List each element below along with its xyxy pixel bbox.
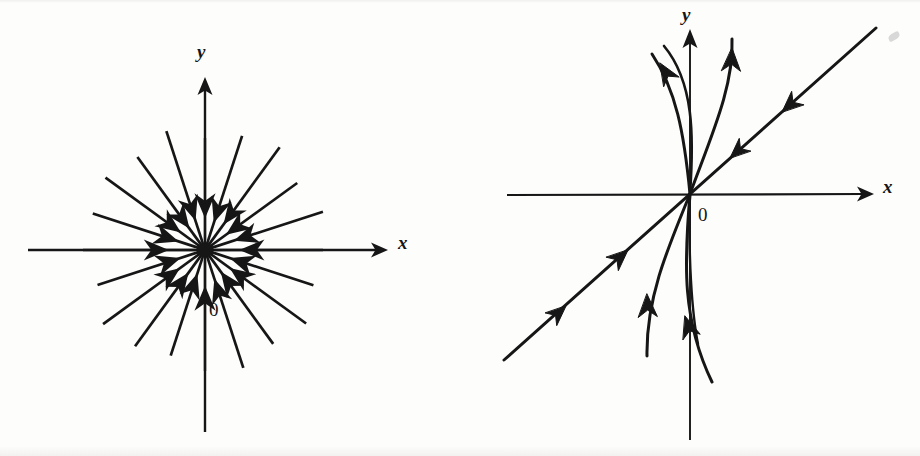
- degenerate-node-svg: x y 0: [460, 0, 920, 456]
- origin-label: 0: [698, 204, 708, 225]
- origin-label: 0: [209, 299, 219, 320]
- y-axis-label: y: [195, 41, 206, 62]
- star-node-svg: x y 0: [0, 0, 460, 456]
- eigendirection-arrowhead-lower-outer: [545, 306, 566, 326]
- paper-edge-bottom: [0, 446, 920, 456]
- x-axis-label: x: [882, 176, 893, 197]
- degenerate-node-phase-portrait: x y 0: [460, 0, 920, 456]
- x-axis-label: x: [397, 232, 408, 253]
- x-axis-line: [507, 194, 864, 195]
- node-point: [197, 243, 214, 257]
- figure-page: x y 0 x y 0: [0, 0, 920, 456]
- y-axis-label: y: [680, 4, 691, 25]
- star-node-phase-portrait: x y 0: [0, 0, 460, 456]
